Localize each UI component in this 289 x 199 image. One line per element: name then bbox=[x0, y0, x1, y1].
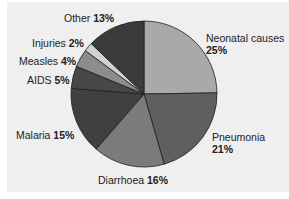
label-other-name: Other bbox=[64, 12, 90, 24]
label-neonatal-name: Neonatal causes bbox=[206, 32, 284, 44]
label-pneumonia-pct: 21% bbox=[212, 143, 233, 155]
label-malaria-pct: 15% bbox=[53, 129, 74, 141]
label-aids: AIDS 5% bbox=[27, 74, 70, 86]
label-injuries-name: Injuries bbox=[32, 37, 66, 49]
label-malaria: Malaria 15% bbox=[16, 129, 74, 141]
label-other: Other 13% bbox=[64, 12, 114, 24]
label-aids-pct: 5% bbox=[54, 74, 69, 86]
label-measles: Measles 4% bbox=[19, 55, 76, 67]
label-injuries: Injuries 2% bbox=[32, 37, 84, 49]
label-neonatal-pct: 25% bbox=[206, 44, 227, 56]
label-measles-name: Measles bbox=[19, 55, 58, 67]
label-injuries-pct: 2% bbox=[69, 37, 84, 49]
label-measles-pct: 4% bbox=[61, 55, 76, 67]
label-malaria-name: Malaria bbox=[16, 129, 50, 141]
label-neonatal: Neonatal causes 25% bbox=[206, 32, 284, 56]
label-pneumonia-name: Pneumonia bbox=[212, 131, 265, 143]
label-aids-name: AIDS bbox=[27, 74, 52, 86]
label-pneumonia: Pneumonia 21% bbox=[212, 131, 265, 155]
pie-chart bbox=[0, 0, 289, 199]
label-diarrhoea-name: Diarrhoea bbox=[98, 174, 144, 186]
label-other-pct: 13% bbox=[93, 12, 114, 24]
label-diarrhoea: Diarrhoea 16% bbox=[98, 174, 168, 186]
label-diarrhoea-pct: 16% bbox=[147, 174, 168, 186]
